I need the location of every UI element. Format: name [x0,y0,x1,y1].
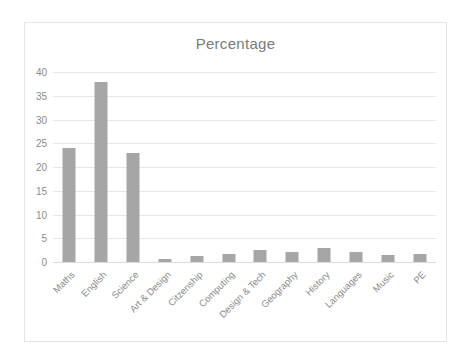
gridline [53,262,436,263]
bar [62,148,75,262]
bar-group: Languages [340,72,372,262]
x-axis-tick-label: Science [109,269,141,301]
bar [94,82,107,263]
bar [414,254,427,262]
bar [126,153,139,262]
y-axis-tick-label: 15 [36,185,47,196]
bar-group: Science [117,72,149,262]
bar-group: English [85,72,117,262]
bar-group: Music [372,72,404,262]
bar-group: Art & Design [149,72,181,262]
y-axis-tick-label: 10 [36,209,47,220]
bar [254,250,267,262]
bar [222,254,235,262]
x-axis-tick-label: History [303,269,332,298]
bar [318,248,331,262]
y-axis-tick-label: 5 [41,233,47,244]
bar [190,256,203,262]
bar [350,252,363,262]
y-axis-tick-label: 30 [36,114,47,125]
y-axis-tick-label: 35 [36,90,47,101]
bar-group: History [308,72,340,262]
bar [158,259,171,262]
chart-container: Percentage 0510152025303540 MathsEnglish… [24,22,447,342]
x-axis-tick-label: Music [371,269,396,294]
bar-group: Geography [276,72,308,262]
bar [286,252,299,262]
bar-series: MathsEnglishScienceArt & DesignCitzenshi… [53,72,436,262]
x-axis-tick-label: PE [411,269,428,286]
bar-group: Design & Tech [245,72,277,262]
bar-group: PE [404,72,436,262]
x-axis-tick-label: Maths [51,269,77,295]
y-axis-tick-label: 25 [36,138,47,149]
bar-group: Citzenship [181,72,213,262]
chart-title: Percentage [25,35,446,52]
x-axis-tick-label: English [79,269,109,299]
bar [382,255,395,262]
y-axis-tick-label: 0 [41,257,47,268]
bar-group: Maths [53,72,85,262]
bar-group: Computing [213,72,245,262]
y-axis-tick-label: 40 [36,67,47,78]
y-axis-tick-label: 20 [36,162,47,173]
plot-area: 0510152025303540 MathsEnglishScienceArt … [53,72,436,262]
